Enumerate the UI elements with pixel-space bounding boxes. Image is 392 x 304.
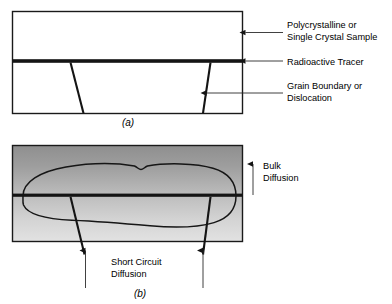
label-radioactive-tracer: Radioactive Tracer <box>287 57 364 67</box>
label-short-circuit-diffusion: Short Circuit Diffusion <box>111 257 164 279</box>
label-grain-boundary-line-2: Dislocation <box>287 93 332 103</box>
panel-b-caption: (b) <box>134 288 146 299</box>
panel-a-caption: (a) <box>122 117 134 128</box>
label-bulk-diffusion-line-1: Bulk <box>263 161 281 171</box>
label-grain-boundary-line-1: Grain Boundary or <box>287 81 362 91</box>
label-radioactive-tracer-line-1: Radioactive Tracer <box>287 57 364 67</box>
label-sample: Polycrystalline or Single Crystal Sample <box>287 20 377 42</box>
panel-a-grain-boundary-right <box>203 63 211 114</box>
label-sample-line-2: Single Crystal Sample <box>287 32 377 42</box>
label-short-circuit-diffusion-line-1: Short Circuit <box>111 257 162 267</box>
label-sample-line-1: Polycrystalline or <box>287 20 356 30</box>
diffusion-figure: Polycrystalline or Single Crystal Sample… <box>0 0 392 304</box>
panel-b-radioactive-tracer-band <box>13 194 243 197</box>
label-grain-boundary: Grain Boundary or Dislocation <box>287 81 365 103</box>
label-bulk-diffusion: Bulk Diffusion <box>263 161 299 183</box>
panel-b: Bulk Diffusion Short Circuit Diffusion (… <box>13 146 299 300</box>
figure-canvas: Polycrystalline or Single Crystal Sample… <box>0 0 392 304</box>
label-short-circuit-diffusion-line-2: Diffusion <box>111 269 147 279</box>
panel-a: Polycrystalline or Single Crystal Sample… <box>13 12 378 129</box>
panel-a-grain-boundary-left <box>71 63 84 114</box>
panel-b-diffused-sample-block <box>13 146 243 242</box>
panel-a-radioactive-tracer-band <box>13 59 243 63</box>
label-bulk-diffusion-line-2: Diffusion <box>263 173 299 183</box>
